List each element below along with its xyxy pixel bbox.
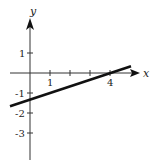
line-graph: x y 1 4 1 -1 -2 -3 (0, 0, 155, 163)
x-tick-label-4: 4 (107, 77, 113, 88)
x-tick-label-1: 1 (47, 77, 53, 88)
y-axis-label: y (29, 5, 37, 18)
y-tick-label-1: 1 (19, 48, 25, 59)
x-axis-label: x (143, 67, 150, 80)
y-tick-label-minus-2: -2 (15, 108, 25, 119)
y-tick-label-minus-3: -3 (15, 128, 25, 139)
y-tick-label-minus-1: -1 (15, 88, 25, 99)
